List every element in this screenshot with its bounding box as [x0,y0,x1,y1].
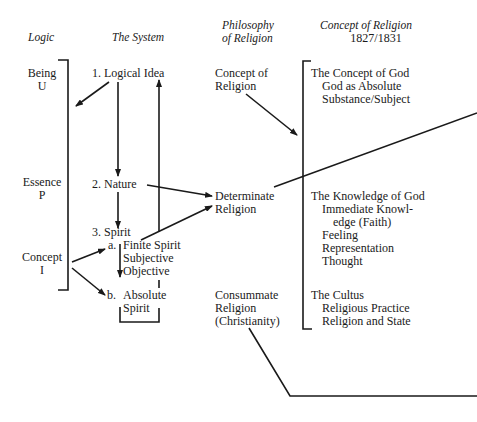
cor-feeling: Feeling [322,228,358,242]
logic-concept-symbol: I [20,263,64,277]
arrow-concept-of-religion [246,94,297,135]
header-concept-1: Concept of Religion [320,18,412,32]
phil-christianity: (Christianity) [215,314,280,328]
arrow-logical-idea-to-being [76,82,109,106]
line-consummate-to-right [249,328,477,396]
system-a-label: a. [108,238,116,252]
cor-immediate-knowl: Immediate Knowl- [322,202,413,216]
cor-concept-of-god: The Concept of God [311,66,409,80]
header-logic: Logic [28,30,54,44]
arrow-finite-to-determinate [141,206,212,240]
arrow-concept-to-b [72,268,105,295]
line-determinate-to-right [274,113,477,187]
phil-concept-of: Concept of [215,66,268,80]
system-spirit: 3. Spirit [92,225,131,239]
cor-thought: Thought [322,254,363,268]
cor-religion-and-state: Religion and State [322,314,411,328]
header-philosophy-2: of Religion [222,31,273,45]
logic-being: Being [24,66,60,80]
logic-concept: Concept [20,250,64,264]
system-nature: 2. Nature [92,177,137,191]
header-concept-2: 1827/1831 [340,31,412,45]
logic-essence: Essence [20,175,64,189]
phil-determinate: Determinate [215,189,274,203]
system-spirit-2: Spirit [123,301,150,315]
cor-god-as-absolute: God as Absolute [322,79,401,93]
cor-religious-practice: Religious Practice [322,301,410,315]
phil-religion-3: Religion [215,301,256,315]
header-system: The System [112,30,164,44]
arrow-concept-to-a [72,249,105,262]
cor-knowledge-of-god: The Knowledge of God [311,189,425,203]
logic-being-symbol: U [24,79,60,93]
phil-consummate: Consummate [215,288,278,302]
system-subjective: Subjective [123,251,174,265]
system-logical-idea: 1. Logical Idea [92,66,164,80]
system-absolute: Absolute [123,288,166,302]
cor-representation: Representation [322,241,394,255]
cor-substance-subject: Substance/Subject [322,92,410,106]
cor-edge-faith: edge (Faith) [333,215,391,229]
phil-religion-1: Religion [215,79,256,93]
system-finite-spirit: Finite Spirit [123,238,181,252]
logic-essence-symbol: P [20,188,64,202]
arrow-nature-to-determinate [147,185,212,196]
phil-religion-2: Religion [215,202,256,216]
cor-cultus: The Cultus [311,288,364,302]
header-philosophy-1: Philosophy [222,18,274,32]
system-objective: Objective [123,264,170,278]
system-b-label: b. [107,288,116,302]
